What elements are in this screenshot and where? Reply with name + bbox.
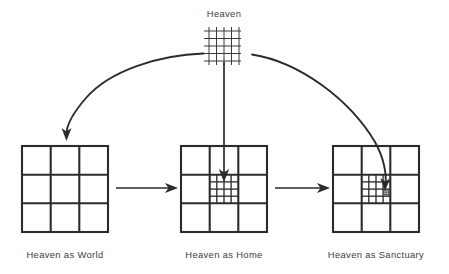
heaven-label: Heaven (207, 8, 241, 19)
panel-sanctuary-grid (333, 146, 419, 232)
arrow-heaven-to-home (219, 62, 229, 182)
arrow-world-to-home (116, 183, 178, 193)
panel-home-nested-grid (210, 175, 239, 204)
heaven-grid (204, 27, 241, 65)
arrow-heaven-to-world (62, 54, 204, 142)
arrow-home-to-sanctuary (275, 183, 330, 193)
diagram-canvas: Heaven (0, 0, 449, 274)
panel-world-grid (22, 146, 108, 232)
heaven-nesting-diagram: Heaven (0, 0, 449, 274)
caption-heaven-as-home: Heaven as Home (185, 249, 262, 260)
caption-heaven-as-world: Heaven as World (27, 249, 104, 260)
arrow-heaven-to-sanctuary (252, 55, 390, 192)
panel-sanctuary-micro-grid (383, 189, 390, 196)
caption-heaven-as-sanctuary: Heaven as Sanctuary (328, 249, 424, 260)
